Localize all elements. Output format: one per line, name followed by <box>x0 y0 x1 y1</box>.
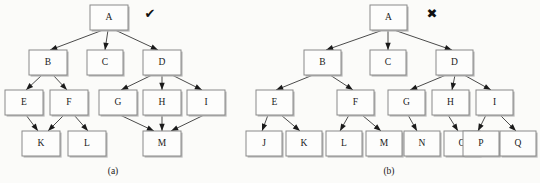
node-d[interactable]: D <box>143 50 183 77</box>
node-label: C <box>102 57 108 67</box>
arrow-head-e-k <box>32 124 38 131</box>
arrow-head-h-o <box>452 123 458 131</box>
node-k[interactable]: K <box>286 131 324 158</box>
node-m[interactable]: M <box>143 131 183 158</box>
node-label: P <box>478 138 483 148</box>
node-group: ABCDEFGHIKLM <box>5 5 227 158</box>
node-label: I <box>204 97 207 107</box>
node-label: D <box>451 57 458 67</box>
arrow-head-d-g <box>121 84 129 90</box>
node-h[interactable]: H <box>432 90 471 117</box>
node-label: A <box>106 12 113 22</box>
node-e[interactable]: E <box>5 90 45 117</box>
node-b[interactable]: B <box>29 50 69 77</box>
arrow-head-d-g <box>410 85 418 90</box>
arrow-head-a-d <box>444 45 452 50</box>
node-label: M <box>158 138 167 148</box>
arrow-head-d-i <box>483 84 491 90</box>
node-group: ABCDEFGHIJKLMNOPQ <box>246 5 538 158</box>
node-l[interactable]: L <box>68 131 108 158</box>
node-c[interactable]: C <box>87 50 125 77</box>
dag-figure: ABCDEFGHIKLM✔(a)ABCDEFGHIJKLMNOPQ✖(b) <box>0 0 540 183</box>
arrow-head-a-b <box>50 45 58 50</box>
arrow-head-g-m <box>146 125 154 131</box>
node-i[interactable]: I <box>476 90 515 117</box>
panel-a: ABCDEFGHIKLM✔(a) <box>5 5 227 177</box>
node-n[interactable]: N <box>404 131 442 158</box>
arrow-head-a-c <box>103 42 108 50</box>
node-label: L <box>341 138 347 148</box>
node-label: E <box>272 97 278 107</box>
node-b[interactable]: B <box>304 50 343 77</box>
node-label: A <box>385 12 392 22</box>
arrow-head-e-j <box>262 123 267 131</box>
arrow-head-d-h <box>159 83 164 90</box>
edge-a-to-b <box>50 30 103 50</box>
node-label: D <box>159 57 166 67</box>
arrow-head-d-i <box>194 84 202 90</box>
node-label: M <box>380 138 389 148</box>
node-i[interactable]: I <box>187 90 227 117</box>
node-e[interactable]: E <box>256 90 295 117</box>
node-label: N <box>419 138 426 148</box>
node-f[interactable]: F <box>50 90 90 117</box>
panel-caption: (b) <box>383 166 394 177</box>
node-a[interactable]: A <box>90 5 130 32</box>
arrow-head-d-h <box>451 82 456 90</box>
arrow-head-b-e <box>276 85 284 90</box>
arrow-head-h-m <box>159 124 164 131</box>
arrow-head-f-l <box>340 123 346 131</box>
node-label: F <box>353 97 358 107</box>
node-q[interactable]: Q <box>500 131 538 158</box>
node-c[interactable]: C <box>370 50 408 77</box>
node-m[interactable]: M <box>366 131 404 158</box>
node-label: E <box>21 97 27 107</box>
check-mark-icon: ✔ <box>145 6 156 21</box>
arrow-head-a-c <box>385 43 390 50</box>
node-label: H <box>447 97 454 107</box>
arrow-head-g-n <box>411 123 417 131</box>
arrow-head-i-m <box>171 125 179 131</box>
node-d[interactable]: D <box>436 50 475 77</box>
edge-a-to-d <box>394 30 452 50</box>
node-j[interactable]: J <box>246 131 284 158</box>
node-label: H <box>159 97 166 107</box>
cross-mark-icon: ✖ <box>427 6 438 21</box>
diagram-canvas: ABCDEFGHIKLM✔(a)ABCDEFGHIJKLMNOPQ✖(b) <box>0 0 540 183</box>
node-label: L <box>84 138 90 148</box>
arrow-head-a-b <box>326 45 334 50</box>
node-p[interactable]: P <box>463 131 501 158</box>
node-label: B <box>45 57 51 67</box>
node-h[interactable]: H <box>143 90 183 117</box>
node-label: C <box>385 57 391 67</box>
node-l[interactable]: L <box>326 131 364 158</box>
panel-b: ABCDEFGHIJKLMNOPQ✖(b) <box>246 5 538 177</box>
arrow-head-b-f <box>345 84 353 90</box>
node-label: J <box>262 138 266 148</box>
node-g[interactable]: G <box>388 90 427 117</box>
panel-caption: (a) <box>108 166 119 177</box>
node-g[interactable]: G <box>99 90 139 117</box>
node-f[interactable]: F <box>337 90 376 117</box>
node-k[interactable]: K <box>22 131 62 158</box>
node-label: K <box>38 138 45 148</box>
edge-a-to-b <box>326 30 383 50</box>
arrow-head-a-d <box>150 45 158 50</box>
node-a[interactable]: A <box>370 5 409 32</box>
node-label: G <box>403 97 410 107</box>
arrow-head-i-p <box>478 123 484 131</box>
node-label: G <box>115 97 122 107</box>
node-label: K <box>301 138 308 148</box>
node-label: I <box>493 97 496 107</box>
node-label: B <box>319 57 325 67</box>
node-label: Q <box>515 138 522 148</box>
node-label: F <box>66 97 71 107</box>
